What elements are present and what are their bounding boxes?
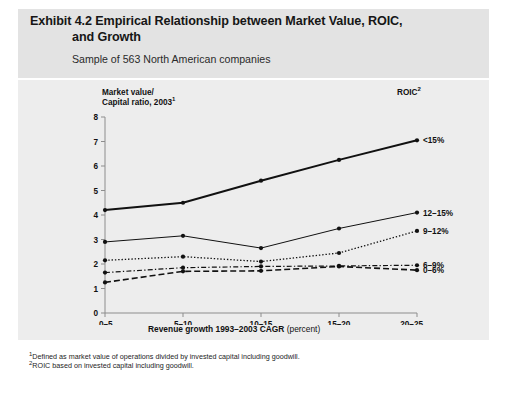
series-line [105,213,417,249]
footnote-2-text: ROIC based on invested capital including… [32,361,193,370]
y-axis-tick-label: 6 [93,162,98,171]
footnote-2: 2ROIC based on invested capital includin… [29,361,300,370]
data-point-marker [337,264,341,268]
x-axis-tick-label: 15–20 [328,320,351,325]
series-label: <15% [423,136,445,145]
data-point-marker [181,255,185,259]
data-point-marker [337,158,341,162]
series-label-group: <15%12–15%9–12%6–9%0–6% [423,136,454,275]
series-label: 9–12% [423,227,449,236]
data-point-marker [103,270,107,274]
data-point-marker [259,269,263,273]
data-point-marker [415,210,419,214]
footnote-1: 1Defined as market value of operations d… [29,352,300,361]
footnote-1-text: Defined as market value of operations di… [32,352,299,361]
x-axis-tick-label: 0–5 [99,320,113,325]
y-axis-tick-label: 8 [93,113,98,122]
y-axis-tick-label: 4 [93,211,98,220]
exhibit-container: Exhibit 4.2 Empirical Relationship betwe… [0,0,507,404]
data-point-marker [181,269,185,273]
y-axis-tick-label: 0 [93,309,98,318]
data-point-marker [181,266,185,270]
series-label: 12–15% [423,209,454,218]
subtitle: Sample of 563 North American companies [72,53,270,65]
y-axis-tick-group: 012345678 [93,113,105,318]
y-axis-tick-label: 7 [93,138,98,147]
data-point-marker [103,280,107,284]
title-line-2: and Growth [30,30,450,46]
title-line-1: Exhibit 4.2 Empirical Relationship betwe… [30,14,402,28]
y-axis-tick-label: 1 [93,285,98,294]
page-title: Exhibit 4.2 Empirical Relationship betwe… [30,14,450,45]
footnotes: 1Defined as market value of operations d… [29,352,300,371]
series-group [103,138,419,284]
x-axis-unit: (percent) [287,324,321,334]
series-label: 0–6% [423,266,445,275]
data-point-marker [415,268,419,272]
data-point-marker [259,246,263,250]
series-line [105,140,417,210]
line-chart: 012345678 0–55–1010–1515–2020–25 <15%12–… [18,80,489,325]
data-point-marker [337,226,341,230]
y-axis-tick-label: 3 [93,236,98,245]
data-point-marker [415,138,419,142]
data-point-marker [103,258,107,262]
data-point-marker [103,208,107,212]
x-axis-title: Revenue growth 1993–2003 CAGR (percent) [148,324,320,334]
data-point-marker [103,240,107,244]
data-point-marker [259,264,263,268]
data-point-marker [181,201,185,205]
x-axis-tick-label: 20–25 [400,320,423,325]
data-point-marker [259,259,263,263]
y-axis-tick-label: 2 [93,260,98,269]
data-point-marker [415,263,419,267]
y-axis-tick-label: 5 [93,187,98,196]
data-point-marker [181,234,185,238]
data-point-marker [259,179,263,183]
x-axis-title-text: Revenue growth 1993–2003 CAGR [148,324,284,334]
data-point-marker [337,251,341,255]
data-point-marker [415,229,419,233]
